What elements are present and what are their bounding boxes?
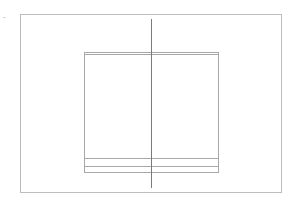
diagram-svg [0, 0, 297, 204]
diagram-canvas [0, 0, 297, 204]
